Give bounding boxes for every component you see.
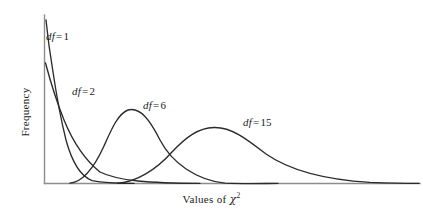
series-label-df-1: df=1 [46, 30, 69, 42]
curve-df-15 [118, 127, 419, 183]
curve-df-1 [46, 20, 134, 183]
df-value: 2 [89, 85, 95, 97]
df-symbol: df [243, 116, 252, 128]
x-axis-label-text: Values of [182, 193, 229, 205]
chi-square-distribution-figure: df=1 df=2 df=6 df=15 Frequency Values of… [0, 0, 423, 218]
df-value: 6 [160, 99, 166, 111]
chi-exponent: 2 [236, 191, 240, 200]
df-symbol: df [72, 85, 81, 97]
curve-df-2 [46, 63, 201, 183]
df-symbol: df [143, 99, 152, 111]
df-value: 1 [63, 30, 69, 42]
df-value: 15 [260, 116, 271, 128]
x-axis-label: Values of χ2 [0, 193, 423, 206]
series-label-df-15: df=15 [243, 116, 272, 128]
series-label-df-6: df=6 [143, 99, 166, 111]
df-symbol: df [46, 30, 55, 42]
y-axis-label: Frequency [19, 67, 31, 157]
series-label-df-2: df=2 [72, 85, 95, 97]
